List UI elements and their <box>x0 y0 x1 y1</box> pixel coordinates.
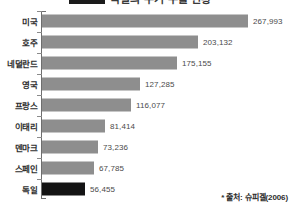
bar <box>42 140 98 153</box>
axis-tick <box>37 179 42 180</box>
category-label: 독일 <box>22 183 38 195</box>
axis-tick <box>37 74 42 75</box>
bar-value-label: 73,236 <box>103 142 128 151</box>
bar-value-label: 175,155 <box>182 58 212 67</box>
bar-row: 이태리81,414 <box>0 115 295 136</box>
category-label: 이태리 <box>15 120 38 132</box>
bar-value-label: 203,132 <box>203 37 233 46</box>
category-label: 스페인 <box>15 162 38 174</box>
bar <box>42 119 105 132</box>
bar <box>42 77 140 90</box>
bar-row: 스페인67,785 <box>0 157 295 178</box>
bar-value-label: 67,785 <box>99 163 124 172</box>
category-label: 영국 <box>22 78 38 90</box>
bar <box>42 182 85 195</box>
bar <box>42 98 131 111</box>
bar <box>42 56 177 69</box>
axis-tick <box>37 11 42 12</box>
chart-legend-strip: 독일의 무기 수출 현황 <box>0 0 295 7</box>
axis-tick <box>37 137 42 138</box>
bar-row: 네덜란드175,155 <box>0 52 295 73</box>
bar-row: 프랑스116,077 <box>0 94 295 115</box>
bar-chart-figure: 독일의 무기 수출 현황 미국267,993호주203,132네덜란드175,1… <box>0 0 295 206</box>
bar-value-label: 81,414 <box>110 121 135 130</box>
bar-row: 미국267,993 <box>0 10 295 31</box>
axis-tick <box>37 53 42 54</box>
category-label: 덴마크 <box>15 141 38 153</box>
bar <box>42 35 198 48</box>
legend-swatch <box>69 0 105 4</box>
bar-row: 호주203,132 <box>0 31 295 52</box>
category-label: 미국 <box>22 15 38 27</box>
bar-row: 영국127,285 <box>0 73 295 94</box>
axis-tick <box>37 158 42 159</box>
bar <box>42 14 248 27</box>
bar-value-label: 116,077 <box>136 100 165 109</box>
axis-tick <box>37 116 42 117</box>
chart-title: 독일의 무기 수출 현황 <box>110 0 212 6</box>
bar <box>42 161 94 174</box>
bar-value-label: 56,455 <box>90 184 115 193</box>
plot-area: 미국267,993호주203,132네덜란드175,155영국127,285프랑… <box>0 9 295 201</box>
category-label: 호주 <box>22 36 38 48</box>
source-note: * 출처: 슈피겔(2006) <box>221 191 288 202</box>
axis-tick <box>37 95 42 96</box>
category-label: 네덜란드 <box>7 57 38 69</box>
bar-value-label: 127,285 <box>145 79 175 88</box>
bar-value-label: 267,993 <box>253 16 283 25</box>
axis-tick <box>37 32 42 33</box>
bar-row: 덴마크73,236 <box>0 136 295 157</box>
category-label: 프랑스 <box>15 99 38 111</box>
